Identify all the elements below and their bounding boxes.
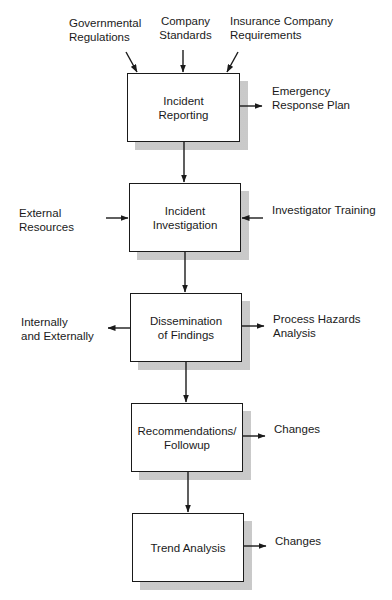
arrow-insurance-requirements [227,52,238,72]
label-company-standards: Company Standards [158,15,213,42]
step-trend-analysis: Trend Analysis [132,513,244,582]
label-insurance-company-requirements: Insurance Company Requirements [230,15,333,42]
incident-flow-diagram: Governmental Regulations Company Standar… [0,0,392,600]
label-changes-recommendations: Changes [274,423,320,437]
step-recommendations-followup: Recommendations/ Followup [131,403,243,472]
label-changes-trend: Changes [275,535,321,549]
label-investigator-training: Investigator Training [272,204,376,218]
label-external-resources: External Resources [19,207,74,234]
step-dissemination-of-findings: Dissemination of Findings [130,293,242,362]
step-incident-reporting: Incident Reporting [127,73,240,142]
label-process-hazards-analysis: Process Hazards Analysis [273,313,361,340]
label-internally-and-externally: Internally and Externally [21,316,94,343]
label-governmental-regulations: Governmental Regulations [69,17,141,44]
arrow-governmental-regulations [126,52,137,72]
label-emergency-response-plan: Emergency Response Plan [272,85,350,112]
step-incident-investigation: Incident Investigation [129,183,241,252]
